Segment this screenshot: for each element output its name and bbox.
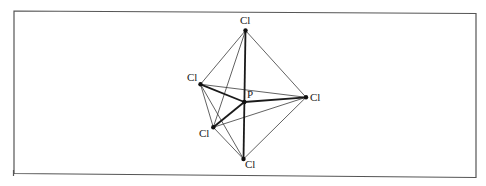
atom-label-right: Cl <box>310 91 320 103</box>
edge-top-left <box>201 31 246 85</box>
atom-label-lower-left: Cl <box>199 127 209 139</box>
bond-P-right <box>244 97 306 102</box>
edge-right-bottom <box>244 97 307 159</box>
bond-top-bottom <box>244 31 246 160</box>
atom-labels: PClClClClCl <box>187 14 320 170</box>
atom-label-top: Cl <box>240 14 250 26</box>
atom-label-P: P <box>247 88 253 100</box>
edge-left-bottom <box>201 84 244 159</box>
atom-label-bottom: Cl <box>245 158 255 170</box>
edge-top-lower-left <box>213 31 245 128</box>
atom-dot-P <box>242 100 246 104</box>
p-cl-bonds <box>201 31 307 160</box>
atom-dot-left <box>198 82 202 86</box>
polyhedron-edges <box>201 31 307 160</box>
atom-dot-right <box>304 95 308 99</box>
pcl5-structure-diagram: PClClClClCl <box>0 0 486 186</box>
atom-dot-top <box>243 28 247 32</box>
edge-lower-left-right <box>213 97 306 127</box>
atom-dot-lower-left <box>211 125 215 129</box>
edge-top-right <box>246 31 307 98</box>
atom-label-left: Cl <box>187 71 197 83</box>
atoms <box>198 28 308 161</box>
edge-left-lower-left <box>201 84 214 127</box>
